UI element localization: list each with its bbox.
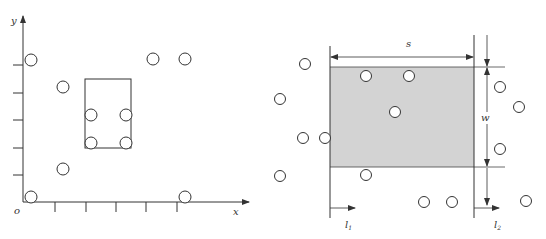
s-label: s [406,38,411,49]
point-circle [298,133,309,144]
x-ticks [55,202,177,212]
point-circle [495,82,506,93]
point-circle [390,107,401,118]
point-circle [120,109,132,121]
point-circle [361,170,372,181]
point-circle [300,59,311,70]
point-circle [25,191,37,203]
point-circle [85,137,97,149]
point-circle [120,137,132,149]
point-circle [447,197,458,208]
right-diagram: s w l1 l2 [275,35,532,231]
point-circle [179,53,191,65]
y-ticks [13,65,23,175]
y-axis-label: y [10,15,17,26]
point-circle [57,81,69,93]
origin-label: o [14,205,20,216]
l1-label: l1 [345,219,352,231]
left-diagram: y x o [10,15,249,217]
point-circle [419,197,430,208]
point-circle [57,163,69,175]
point-circle [361,71,372,82]
point-circle [320,133,331,144]
x-axis-label: x [233,206,239,217]
shaded-region [330,67,474,167]
point-circle [275,94,286,105]
left-circles [25,53,191,203]
point-circle [25,54,37,66]
l2-label: l2 [494,219,501,231]
point-circle [275,171,286,182]
point-circle [521,196,532,207]
point-circle [147,53,159,65]
point-circle [514,102,525,113]
point-circle [404,71,415,82]
point-circle [179,191,191,203]
point-circle [85,109,97,121]
diagram-canvas: y x o s w l1 l2 [0,0,546,239]
w-label: w [481,112,490,123]
point-circle [495,144,506,155]
